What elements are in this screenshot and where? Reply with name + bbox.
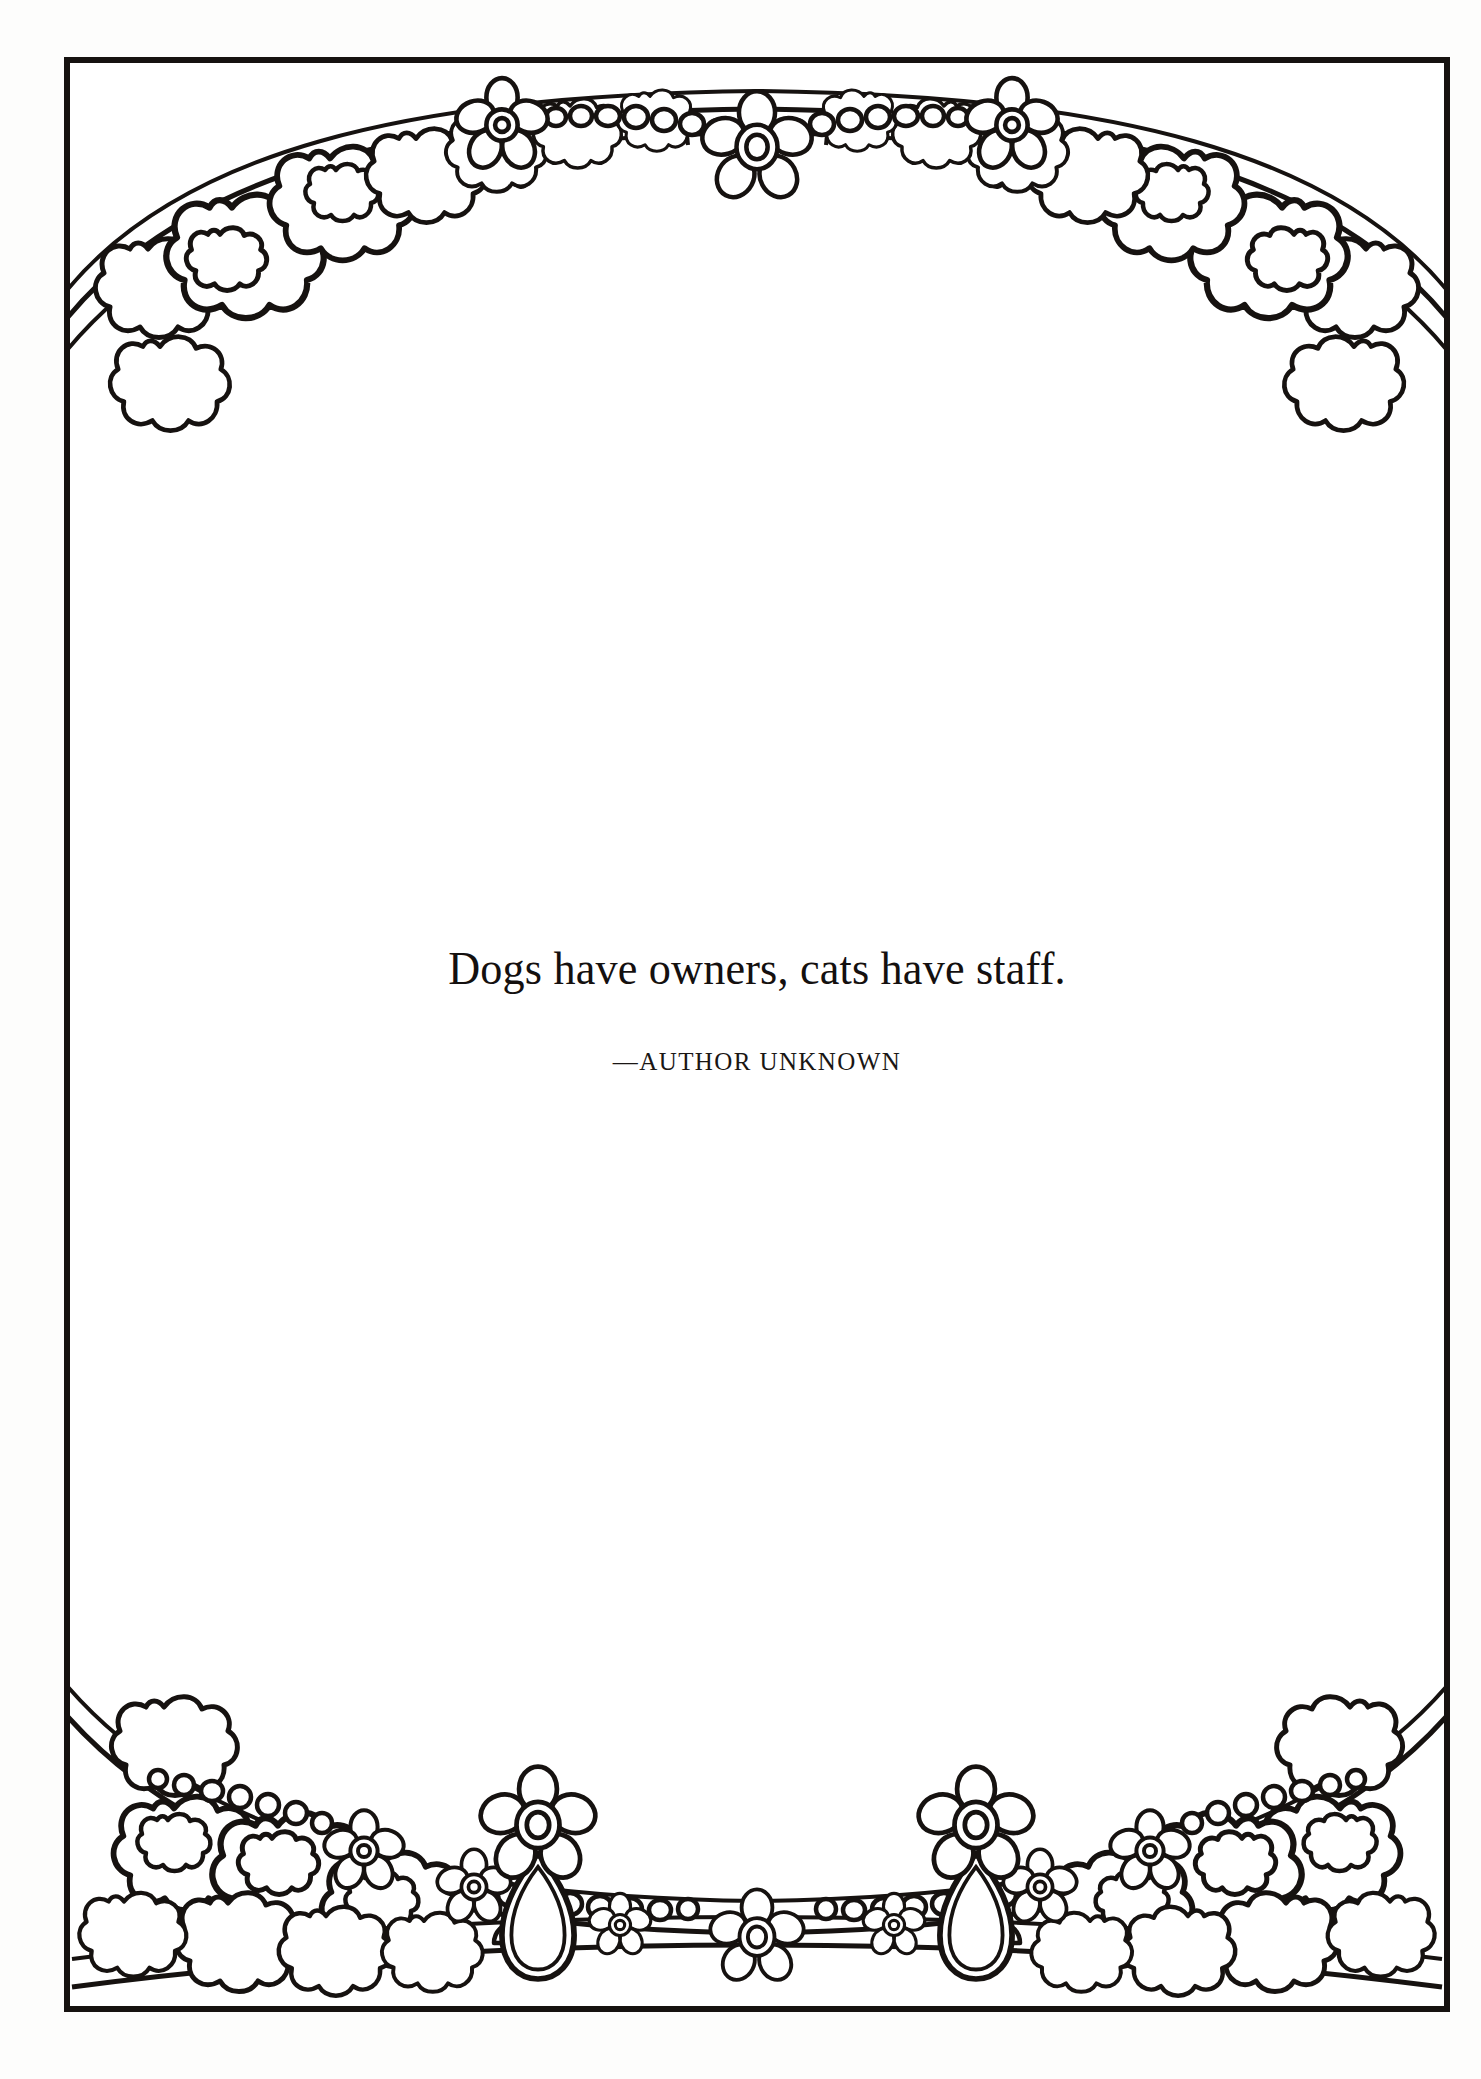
quote-block: Dogs have owners, cats have staff. —AUTH… — [64, 941, 1450, 1076]
quote-attribution: —AUTHOR UNKNOWN — [64, 1048, 1450, 1076]
page-canvas: Dogs have owners, cats have staff. —AUTH… — [0, 0, 1481, 2079]
decorative-plate: Dogs have owners, cats have staff. —AUTH… — [64, 57, 1450, 2012]
quote-text: Dogs have owners, cats have staff. — [92, 941, 1423, 996]
